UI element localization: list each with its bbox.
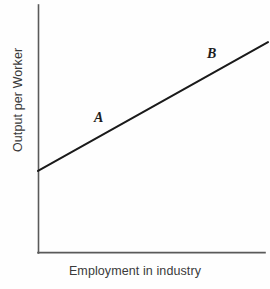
y-axis-label: Output per Worker <box>11 0 35 152</box>
data-series-line <box>38 42 268 171</box>
annotation-point-b: B <box>207 46 216 62</box>
chart-figure: Output per Worker Employment in industry… <box>0 0 270 289</box>
annotation-point-a: A <box>94 110 103 126</box>
x-axis-label: Employment in industry <box>0 264 270 278</box>
line-chart-plot <box>0 0 270 289</box>
